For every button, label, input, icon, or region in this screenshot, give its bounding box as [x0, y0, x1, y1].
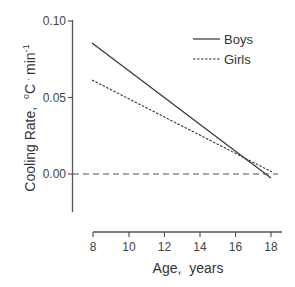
legend-girls-label: Girls	[224, 52, 251, 67]
legend: Boys Girls	[193, 32, 253, 67]
x-tick-label: 18	[264, 240, 278, 254]
y-tick-label: 0.10	[43, 14, 67, 28]
legend-boys-label: Boys	[224, 32, 253, 47]
y-tick-label: 0.00	[43, 167, 67, 181]
x-axis-label: Age, years	[153, 260, 224, 276]
x-tick-label: 10	[122, 240, 136, 254]
x-tick-label: 8	[90, 240, 97, 254]
x-tick-label: 14	[193, 240, 207, 254]
x-tick-label: 16	[229, 240, 243, 254]
x-tick-label: 12	[158, 240, 172, 254]
chart: 0.10 0.05 0.00 8 10 12 14 16 18 Age, yea…	[0, 0, 295, 287]
y-axis-label: Cooling Rate, oC·min-1	[21, 44, 38, 191]
y-tick-label: 0.05	[43, 91, 67, 105]
